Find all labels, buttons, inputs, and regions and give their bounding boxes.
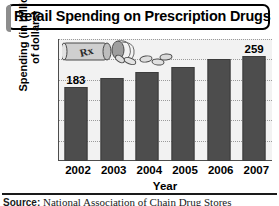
source-prefix: Source: [3,197,40,206]
bar-2003[interactable] [100,78,123,161]
bar-slot-2007: 259 [236,39,272,161]
x-tick-2003: 2003 [94,164,134,176]
chart-figure: Retail Spending on Prescription Drugs Sp… [0,0,279,206]
x-tick-2007: 2007 [236,164,276,176]
x-tick-2006: 2006 [201,164,241,176]
x-tick-2002: 2002 [58,164,98,176]
bar-2002[interactable] [64,87,87,161]
bar-2004[interactable] [136,72,159,161]
bar-2005[interactable] [171,67,194,161]
bar-label-2007: 259 [245,43,264,55]
pill-bottle-icon: Rx [62,40,182,70]
source-divider [2,193,277,195]
x-tick-2004: 2004 [129,164,169,176]
bar-label-2002: 183 [66,74,85,86]
x-tick-2005: 2005 [165,164,205,176]
bar-2006[interactable] [207,59,230,161]
source-body: National Association of Chain Drug Store… [43,196,232,206]
bar-2007[interactable] [243,56,266,161]
bar-slot-2006 [201,39,237,161]
source-note: Source: National Association of Chain Dr… [3,196,232,206]
x-axis-label: Year [58,180,272,192]
page-title: Retail Spending on Prescription Drugs [14,8,270,24]
